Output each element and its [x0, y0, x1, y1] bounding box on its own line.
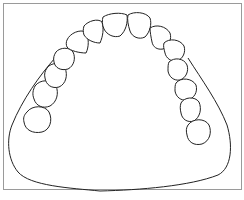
figure-caption: [30, 192, 240, 200]
tooth-right-second-molar: [186, 120, 210, 145]
tooth-right-central-incisor: [128, 13, 151, 39]
tooth-right-second-premolar: [175, 79, 197, 100]
tooth-left-second-molar: [24, 107, 51, 133]
tooth-right-canine: [164, 40, 185, 61]
tooth-right-first-molar: [180, 98, 200, 122]
dental-arch-diagram: [0, 0, 244, 200]
tooth-left-first-premolar: [54, 48, 75, 69]
tooth-left-central-incisor: [102, 13, 127, 36]
tooth-right-first-premolar: [168, 59, 188, 80]
